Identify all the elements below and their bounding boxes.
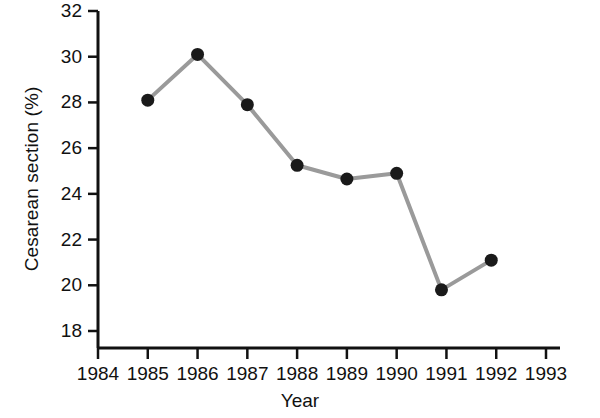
y-axis-tick-label: 32 (36, 1, 82, 20)
y-axis-tick-label: 30 (36, 47, 82, 66)
data-point-marker (340, 173, 353, 186)
series-line (148, 54, 491, 289)
axes (98, 11, 560, 348)
x-axis-tick-label: 1993 (511, 364, 581, 383)
data-point-marker (241, 98, 254, 111)
data-point-marker (191, 48, 204, 61)
y-axis-tick-label: 22 (36, 230, 82, 249)
y-axis-tick-label: 20 (36, 275, 82, 294)
y-axis-tick-label: 24 (36, 184, 82, 203)
y-axis-tick-label: 18 (36, 321, 82, 340)
data-point-marker (390, 167, 403, 180)
y-axis-tick-label: 28 (36, 92, 82, 111)
data-point-marker (291, 159, 304, 172)
data-point-marker (485, 254, 498, 267)
data-point-marker (435, 283, 448, 296)
y-axis-tick-label: 26 (36, 138, 82, 157)
line-chart: Cesarean section (%) Year 18202224262830… (0, 0, 600, 418)
data-point-marker (141, 94, 154, 107)
x-axis-title: Year (0, 390, 600, 412)
plot-area (0, 0, 600, 418)
x-axis-ticks (98, 348, 546, 359)
data-line-series (148, 54, 491, 289)
